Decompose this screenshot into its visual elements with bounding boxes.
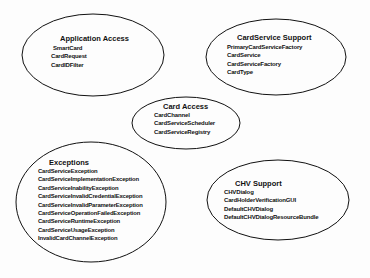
group-title: CardService Support (237, 33, 312, 42)
application-access-group: Application Access SmartCard CardRequest… (51, 34, 129, 69)
class-item: InvalidCardChannelException (38, 234, 143, 242)
class-item: CardIDFilter (51, 61, 129, 69)
card-access-group: Card Access CardChannel CardServiceSched… (154, 102, 215, 136)
class-item: CardServiceImplementationException (38, 175, 143, 183)
class-list: CardServiceException CardServiceImplemen… (38, 167, 143, 243)
class-item: PrimaryCardServiceFactory (227, 43, 312, 51)
class-item: CardHolderVerificationGUI (224, 196, 319, 204)
class-item: CardServiceFactory (227, 60, 312, 68)
class-item: CardType (227, 68, 312, 76)
class-list: CardChannel CardServiceScheduler CardSer… (154, 111, 215, 136)
class-list: PrimaryCardServiceFactory CardService Ca… (227, 43, 312, 77)
class-list: SmartCard CardRequest CardIDFilter (51, 44, 129, 69)
class-item: DefaultCHVDialog (224, 205, 319, 213)
class-item: CardServiceOperationFailedException (38, 209, 143, 217)
class-item: CardServiceInabilityException (38, 184, 143, 192)
class-item: CardChannel (154, 111, 215, 119)
class-item: CardServiceException (38, 167, 143, 175)
class-item: SmartCard (53, 44, 129, 52)
group-title: Card Access (163, 102, 215, 111)
chv-support-group: CHV Support CHVDialog CardHolderVerifica… (224, 179, 319, 222)
group-title: CHV Support (235, 179, 319, 188)
class-item: CardServiceUsageException (38, 226, 143, 234)
class-item: DefaultCHVDialogResourceBundle (224, 213, 319, 221)
exceptions-group: Exceptions CardServiceException CardServ… (38, 158, 143, 243)
group-title: Exceptions (49, 158, 143, 167)
package-diagram: Application Access SmartCard CardRequest… (0, 0, 370, 278)
group-title: Application Access (60, 34, 129, 43)
class-list: CHVDialog CardHolderVerificationGUI Defa… (224, 188, 319, 222)
class-item: CardRequest (51, 52, 129, 60)
class-item: CardServiceScheduler (154, 119, 215, 127)
class-item: CHVDialog (224, 188, 319, 196)
class-item: CardServiceRuntimeException (38, 217, 143, 225)
class-item: CardServiceInvalidCredentialException (38, 192, 143, 200)
cardservice-support-group: CardService Support PrimaryCardServiceFa… (227, 33, 312, 77)
class-item: CardService (227, 51, 312, 59)
class-item: CardServiceRegistry (154, 128, 215, 136)
class-item: CardServiceInvalidParameterException (38, 201, 143, 209)
